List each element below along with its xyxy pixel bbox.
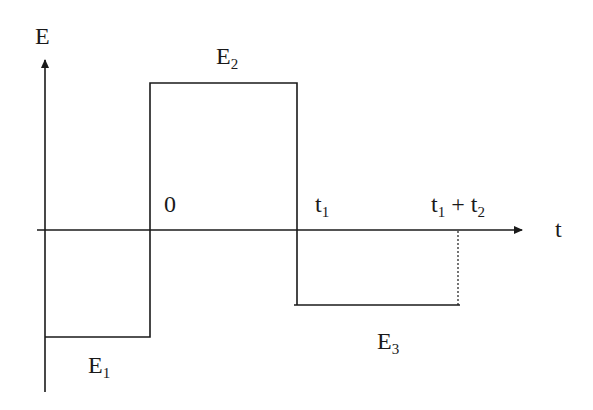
label-e2: E2 xyxy=(216,43,238,72)
label-t1-plus-t2: t1 + t2 xyxy=(431,191,485,220)
label-origin: 0 xyxy=(164,191,176,217)
label-t1: t1 xyxy=(315,191,329,220)
diagram-canvas: E t E2 E1 E3 0 t1 t1 + t2 xyxy=(0,0,593,410)
label-e3: E3 xyxy=(377,328,399,357)
diagram: E t E2 E1 E3 0 t1 t1 + t2 xyxy=(0,0,593,410)
x-axis-label: t xyxy=(555,216,562,242)
y-axis-label: E xyxy=(35,23,50,49)
label-e1: E1 xyxy=(88,352,110,381)
